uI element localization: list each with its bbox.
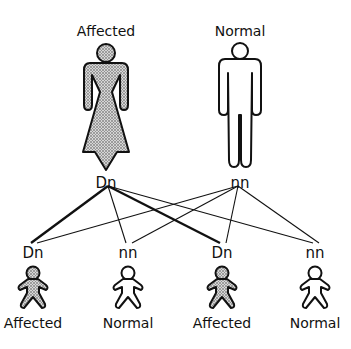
child-1: DnAffected <box>4 244 63 331</box>
child-4: nnNormal <box>290 244 341 331</box>
child-status-label: Affected <box>4 315 63 331</box>
father-genotype: nn <box>230 174 249 192</box>
pedigree-diagram: Affected Normal Dn nn DnAffectednnNormal… <box>0 0 351 349</box>
father-status-label: Normal <box>215 23 266 39</box>
link-father-to-child4 <box>238 186 319 243</box>
child-head <box>27 267 40 280</box>
child-3: DnAffected <box>193 244 252 331</box>
child-body <box>114 279 143 308</box>
child-head <box>122 267 135 280</box>
link-father-to-child3 <box>226 186 238 243</box>
child-status-label: Affected <box>193 315 252 331</box>
link-mother-to-child3 <box>108 186 220 243</box>
father-figure: Normal <box>215 23 266 167</box>
child-status-label: Normal <box>290 315 341 331</box>
father-head <box>232 43 248 59</box>
mother-body <box>83 63 129 170</box>
mother-head <box>97 44 115 62</box>
mother-genotype: Dn <box>95 174 116 192</box>
child-genotype: nn <box>305 244 324 262</box>
child-head <box>216 267 229 280</box>
child-body <box>19 279 48 308</box>
child-genotype: nn <box>118 244 137 262</box>
mother-status-label: Affected <box>77 23 136 39</box>
child-body <box>301 279 330 308</box>
child-genotype: Dn <box>22 244 43 262</box>
link-mother-to-child1 <box>31 186 108 243</box>
mother-figure: Affected <box>77 23 136 170</box>
father-body <box>219 59 261 167</box>
link-father-to-child2 <box>132 186 238 243</box>
child-status-label: Normal <box>103 315 154 331</box>
inheritance-links <box>31 186 319 243</box>
child-genotype: Dn <box>211 244 232 262</box>
child-head <box>309 267 322 280</box>
child-2: nnNormal <box>103 244 154 331</box>
child-body <box>208 279 237 308</box>
